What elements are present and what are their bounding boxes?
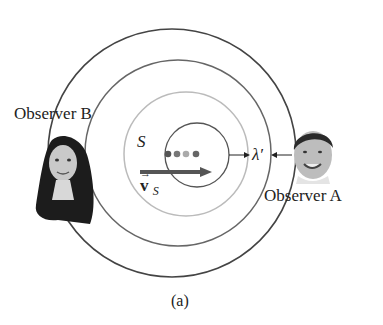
observer-b-label: Observer B	[14, 104, 92, 124]
vector-arrow-glyph: →	[140, 167, 151, 179]
observer-a-label: Observer A	[264, 186, 342, 206]
figure-caption: (a)	[171, 292, 189, 310]
observer-a-portrait	[294, 131, 333, 184]
velocity-label: → v S	[140, 176, 159, 199]
doppler-diagram	[0, 0, 383, 325]
source-label: S	[137, 132, 146, 152]
wavelength-label: λ′	[252, 145, 263, 165]
source-positions	[165, 151, 200, 158]
